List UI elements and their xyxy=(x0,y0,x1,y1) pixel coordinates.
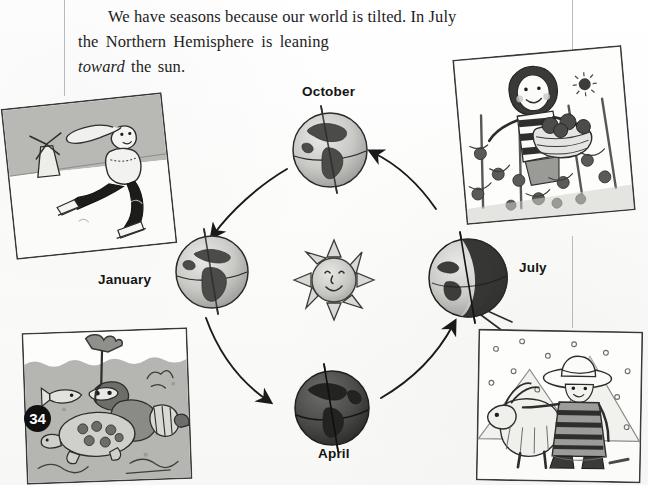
orbit-arrow-january-april xyxy=(206,318,267,400)
globe-april xyxy=(295,364,369,451)
globe-october xyxy=(293,106,367,193)
orbit-arrow-april-july xyxy=(381,325,453,398)
globe-july xyxy=(429,232,512,332)
illustration-ice-skating xyxy=(0,92,177,260)
illustration-andes-snow xyxy=(476,329,644,484)
page-number-badge: 34 xyxy=(24,405,51,432)
smiling-sun-icon xyxy=(294,240,374,320)
snorkelling-scene xyxy=(21,327,192,485)
ice-skating-scene xyxy=(0,92,177,260)
month-label-january: January xyxy=(98,272,151,287)
globe-january xyxy=(176,229,248,314)
illustration-tomato-harvest xyxy=(452,45,636,225)
month-label-april: April xyxy=(318,446,350,461)
orbit-arrow-october-january xyxy=(214,169,287,234)
month-label-july: July xyxy=(519,260,547,275)
tomato-harvest-scene xyxy=(452,45,636,225)
andes-snow-scene xyxy=(476,329,644,484)
month-label-october: October xyxy=(302,84,355,99)
textbook-page: We have seasons because our world is til… xyxy=(0,0,648,485)
illustration-snorkelling xyxy=(21,327,192,485)
orbit-arrow-july-october xyxy=(374,153,436,209)
